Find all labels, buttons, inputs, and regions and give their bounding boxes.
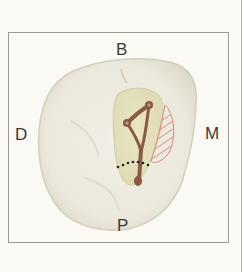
- label-buccal: B: [116, 41, 127, 58]
- diagram-frame: B P D M: [8, 32, 229, 243]
- label-palatal: P: [117, 217, 128, 234]
- label-mesial: M: [205, 125, 219, 142]
- label-distal: D: [15, 126, 27, 143]
